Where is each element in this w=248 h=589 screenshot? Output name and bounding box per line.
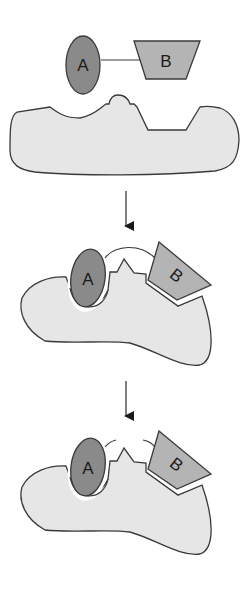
enzyme-catalysis-diagram: A B A B [0,0,248,589]
broken-bond-stub-a [105,440,116,447]
substrate-b-label: B [160,52,171,71]
enzyme-shape [10,95,239,175]
substrate-a-label: A [82,270,94,289]
stage-2: A B [21,242,211,365]
bond-arc [105,247,155,258]
substrate-b: B [134,41,200,79]
stage-3: A B [21,431,211,554]
stage-1: A B [10,36,239,175]
substrate-a-label: A [82,459,94,478]
substrate-a: A [66,36,100,94]
broken-bond-stub-b [143,440,155,447]
substrate-a-label: A [77,56,89,75]
